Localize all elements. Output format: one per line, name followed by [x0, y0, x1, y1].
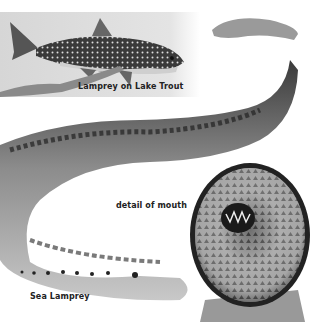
label-lamprey-on-lake-trout: Lamprey on Lake Trout: [78, 82, 183, 91]
lamprey-tail: [212, 18, 298, 40]
lamprey-illustration: Lamprey on Lake Trout detail of mouth Se…: [0, 0, 313, 322]
label-sea-lamprey: Sea Lamprey: [30, 292, 90, 301]
label-detail-of-mouth: detail of mouth: [116, 201, 187, 210]
illustration-art: [0, 0, 313, 322]
mouth-detail: [190, 163, 310, 322]
